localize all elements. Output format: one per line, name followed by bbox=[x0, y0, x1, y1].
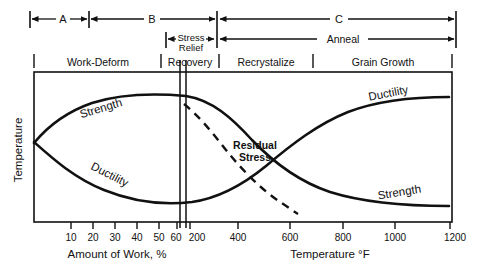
stage-band: Work-Deform Recovery Recrystalize Grain … bbox=[34, 54, 452, 68]
stage-label-work-deform: Work-Deform bbox=[67, 56, 129, 68]
bracket-A: A bbox=[32, 13, 87, 25]
bracket-C: C bbox=[220, 13, 454, 25]
anneal-label: Anneal bbox=[327, 33, 360, 45]
x-tick-label-20: 20 bbox=[87, 232, 99, 243]
x-tick-label-40: 40 bbox=[131, 232, 143, 243]
bracket-B: B bbox=[91, 13, 215, 25]
bracket-A-label: A bbox=[59, 13, 67, 25]
x-tick-label-600: 600 bbox=[282, 232, 299, 243]
x-tick-label-400: 400 bbox=[230, 232, 247, 243]
curve-label-ductility-left: Ductility bbox=[89, 160, 131, 189]
x-axis-ticks-right: 200 400 600 800 1000 1200 bbox=[189, 222, 467, 243]
stage-label-recrystalize: Recrystalize bbox=[237, 56, 294, 68]
x-axis-ticks-left: 10 20 30 40 50 60 bbox=[65, 222, 182, 243]
top-scale-ticks bbox=[30, 11, 456, 48]
x-tick-label-30: 30 bbox=[109, 232, 121, 243]
x-tick-label-200: 200 bbox=[189, 232, 206, 243]
x-tick-label-10: 10 bbox=[65, 232, 77, 243]
x-tick-label-60: 60 bbox=[170, 232, 182, 243]
x-axis-label-right: Temperature °F bbox=[290, 248, 369, 260]
stage-label-recovery: Recovery bbox=[168, 56, 213, 68]
x-tick-label-1200: 1200 bbox=[444, 232, 467, 243]
y-axis-label: Temperature bbox=[12, 118, 24, 183]
bracket-anneal: Anneal bbox=[220, 33, 454, 45]
stage-label-grain-growth: Grain Growth bbox=[352, 56, 415, 68]
x-axis-label-left: Amount of Work, % bbox=[68, 248, 167, 260]
curve-label-residual-stress-line2: Stress bbox=[239, 151, 271, 163]
bracket-C-label: C bbox=[335, 13, 343, 25]
bracket-B-label: B bbox=[148, 13, 155, 25]
x-tick-label-800: 800 bbox=[335, 232, 352, 243]
x-tick-label-50: 50 bbox=[153, 232, 165, 243]
curve-label-strength-right: Strength bbox=[377, 183, 422, 202]
stress-relief-label-line2: Relief bbox=[179, 42, 204, 53]
curve-label-residual-stress-line1: Residual bbox=[233, 139, 277, 151]
diagram-svg: A B C Stress Relief Anneal bbox=[0, 0, 480, 266]
figure-canvas: A B C Stress Relief Anneal bbox=[0, 0, 480, 266]
bracket-stress-relief: Stress Relief bbox=[168, 32, 214, 53]
x-tick-label-1000: 1000 bbox=[384, 232, 407, 243]
